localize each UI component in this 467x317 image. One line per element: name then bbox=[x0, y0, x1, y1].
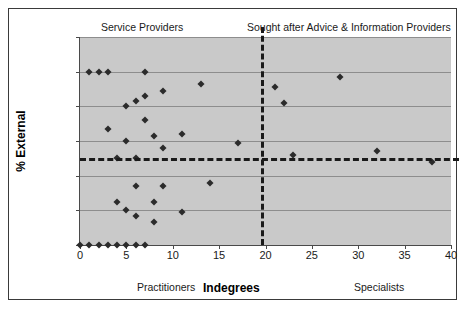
x-tick-mark bbox=[173, 245, 174, 249]
x-tick-mark bbox=[358, 245, 359, 249]
x-tick-label: 40 bbox=[431, 249, 467, 261]
data-point bbox=[104, 125, 111, 132]
y-tick-mark bbox=[76, 141, 80, 142]
y-tick-mark bbox=[76, 72, 80, 73]
data-point bbox=[132, 98, 139, 105]
plot-area: 020406080100120 0510152025303540 bbox=[79, 37, 451, 246]
data-point bbox=[132, 241, 139, 248]
data-point bbox=[76, 241, 83, 248]
data-point bbox=[178, 131, 185, 138]
data-point bbox=[123, 207, 130, 214]
horizontal-divider-line bbox=[80, 158, 459, 161]
x-tick-label: 5 bbox=[106, 249, 146, 261]
data-point bbox=[151, 198, 158, 205]
data-point bbox=[151, 219, 158, 226]
gridline bbox=[80, 141, 451, 142]
gridline bbox=[80, 106, 451, 107]
x-tick-mark bbox=[405, 245, 406, 249]
data-point bbox=[290, 151, 297, 158]
axis-region-label-specialists: Specialists bbox=[354, 281, 404, 293]
x-tick-label: 25 bbox=[292, 249, 332, 261]
data-point bbox=[141, 92, 148, 99]
x-tick-mark bbox=[451, 245, 452, 249]
x-tick-mark bbox=[219, 245, 220, 249]
y-tick-mark bbox=[76, 37, 80, 38]
data-point bbox=[271, 84, 278, 91]
data-point bbox=[104, 68, 111, 75]
x-tick-label: 30 bbox=[338, 249, 378, 261]
data-point bbox=[132, 183, 139, 190]
data-point bbox=[206, 179, 213, 186]
y-tick-mark bbox=[76, 210, 80, 211]
axis-region-label-practitioners: Practitioners bbox=[137, 281, 195, 293]
data-point bbox=[141, 117, 148, 124]
gridline bbox=[80, 37, 451, 38]
x-tick-label: 20 bbox=[246, 249, 286, 261]
data-point bbox=[373, 148, 380, 155]
data-point bbox=[114, 198, 121, 205]
data-point bbox=[160, 144, 167, 151]
data-point bbox=[114, 241, 121, 248]
y-axis-title: % External bbox=[14, 110, 28, 171]
data-point bbox=[123, 137, 130, 144]
data-point bbox=[123, 241, 130, 248]
data-point bbox=[141, 68, 148, 75]
data-point bbox=[86, 241, 93, 248]
data-point bbox=[95, 241, 102, 248]
data-point bbox=[336, 73, 343, 80]
x-tick-mark bbox=[266, 245, 267, 249]
data-point bbox=[86, 68, 93, 75]
y-tick-mark bbox=[76, 106, 80, 107]
y-tick-mark bbox=[76, 176, 80, 177]
quadrant-label-sought-after-advice: Sought after Advice & Information Provid… bbox=[247, 21, 451, 33]
x-tick-label: 10 bbox=[153, 249, 193, 261]
data-point bbox=[123, 103, 130, 110]
gridline bbox=[80, 176, 451, 177]
chart-page: Service Providers Sought after Advice & … bbox=[0, 0, 467, 317]
data-point bbox=[197, 80, 204, 87]
quadrant-label-service-providers: Service Providers bbox=[101, 21, 183, 33]
data-point bbox=[151, 132, 158, 139]
x-axis-title: Indegrees bbox=[203, 281, 260, 295]
x-tick-label: 0 bbox=[60, 249, 100, 261]
figure-frame: Service Providers Sought after Advice & … bbox=[8, 8, 457, 300]
x-tick-label: 35 bbox=[385, 249, 425, 261]
data-point bbox=[160, 183, 167, 190]
vertical-divider-line bbox=[261, 27, 264, 245]
x-tick-mark bbox=[312, 245, 313, 249]
data-point bbox=[95, 68, 102, 75]
gridline bbox=[80, 72, 451, 73]
data-point bbox=[141, 241, 148, 248]
data-point bbox=[281, 99, 288, 106]
data-point bbox=[160, 87, 167, 94]
x-tick-label: 15 bbox=[199, 249, 239, 261]
data-point bbox=[104, 241, 111, 248]
data-point bbox=[132, 212, 139, 219]
